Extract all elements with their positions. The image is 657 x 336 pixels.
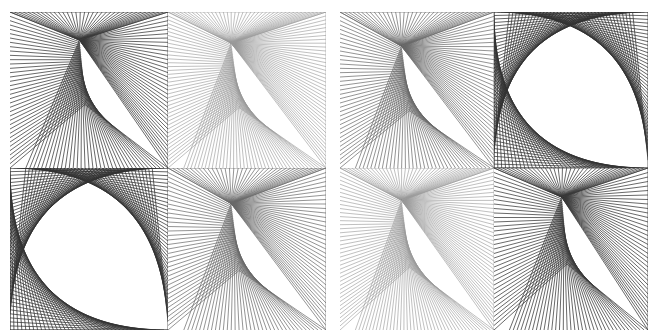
line-pattern-top-right: [168, 12, 326, 168]
pattern-panel: [340, 12, 494, 168]
line-pattern-top-left: [10, 12, 168, 168]
line-pattern-bottom-right: [168, 168, 326, 330]
pattern-panel: [168, 12, 326, 168]
line-pattern-bottom-right: [494, 168, 648, 330]
pattern-panel: [168, 168, 326, 330]
right-pattern-grid: [340, 12, 648, 330]
line-pattern-top-left: [340, 12, 494, 168]
pattern-panel: [494, 12, 648, 168]
line-pattern-top-right: [494, 12, 648, 168]
line-pattern-bottom-left: [340, 168, 494, 330]
pattern-panel: [10, 168, 168, 330]
pattern-panel: [494, 168, 648, 330]
pattern-panel: [340, 168, 494, 330]
left-pattern-grid: [10, 12, 326, 330]
pattern-panel: [10, 12, 168, 168]
line-pattern-bottom-left: [10, 168, 168, 330]
